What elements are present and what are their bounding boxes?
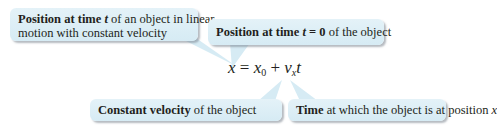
callout-bold: Position at time — [216, 25, 302, 39]
eq-term-t: t — [296, 58, 301, 77]
variable-x: x — [492, 103, 497, 117]
pointer-velocity — [258, 80, 282, 101]
callout-bold: Constant velocity — [98, 103, 191, 117]
callout-text: of an object in linear — [108, 12, 215, 26]
callout-position-at-time-zero: Position at time t = 0 of the object — [208, 19, 384, 45]
eq-equals: = — [236, 58, 254, 77]
callout-time: Time at which the object is at position … — [288, 99, 446, 121]
callout-text: of the object — [326, 25, 392, 39]
pointer-time — [290, 80, 318, 101]
callout-text: at which the object is at position — [324, 103, 492, 117]
callout-bold: Position at time — [18, 12, 104, 26]
eq-lhs: x — [228, 58, 236, 77]
callout-constant-velocity: Constant velocity of the object — [90, 99, 282, 121]
callout-text: of the object — [191, 103, 257, 117]
callout-position-at-time-t: Position at time t of an object in linea… — [10, 8, 198, 41]
equation: x = x0 + vxt — [228, 58, 301, 78]
callout-bold: Time — [296, 103, 324, 117]
eq-term-v: v — [284, 58, 292, 77]
eq-plus: + — [266, 58, 284, 77]
callout-text-line2: motion with constant velocity — [18, 26, 167, 40]
callout-bold-equals-zero: = 0 — [306, 25, 326, 39]
